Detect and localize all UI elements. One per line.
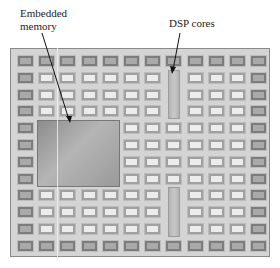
memory-arrow-head <box>66 116 72 123</box>
callout-arrows <box>0 0 280 268</box>
memory-arrow-line <box>42 33 69 120</box>
dsp-arrow-head <box>170 66 176 74</box>
dsp-arrow-line <box>173 33 180 70</box>
